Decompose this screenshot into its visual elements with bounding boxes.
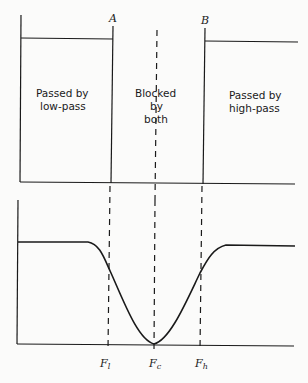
marker-a-label: A <box>108 12 117 25</box>
low-pass-region-label: Passed by low-pass <box>36 87 89 112</box>
fh-sub: h <box>203 362 208 371</box>
high-pass-line1: Passed by <box>229 89 282 101</box>
svg-text:Fc: Fc <box>148 357 162 371</box>
fl-label: Fl <box>99 357 111 371</box>
fc-label: Fc <box>148 357 162 371</box>
svg-text:Fh: Fh <box>194 357 208 371</box>
fc-dashed-line <box>154 200 155 350</box>
high-pass-region-label: Passed by high-pass <box>229 89 282 114</box>
fh-dashed-line <box>200 186 202 350</box>
fc-sub: c <box>157 362 162 371</box>
high-pass-line2: high-pass <box>229 102 280 114</box>
svg-text:Fl: Fl <box>99 357 111 371</box>
band-stop-filter-diagram: A B Passed by low-pass Blocked by both P… <box>0 0 308 383</box>
low-pass-level-line <box>21 38 113 39</box>
band-stop-response-curve <box>18 242 295 344</box>
blocked-line1: Blocked <box>135 87 176 99</box>
fc-main: F <box>148 357 157 370</box>
blocked-line3: both <box>144 113 168 125</box>
fl-sub: l <box>108 362 111 371</box>
fh-main: F <box>194 357 203 370</box>
cutoff-b-line <box>203 28 205 184</box>
fl-main: F <box>99 357 108 370</box>
blocked-line2: by <box>150 100 163 112</box>
low-pass-line1: Passed by <box>36 87 89 99</box>
blocked-region-label: Blocked by both <box>135 87 176 125</box>
high-pass-level-line <box>205 41 298 42</box>
low-pass-line2: low-pass <box>40 100 86 112</box>
top-y-axis <box>20 15 21 182</box>
bottom-y-axis <box>17 200 18 344</box>
bottom-diagram <box>17 186 295 350</box>
cutoff-a-line <box>111 26 113 183</box>
marker-b-label: B <box>200 14 209 27</box>
top-x-axis <box>20 182 295 184</box>
diagram-svg: A B Passed by low-pass Blocked by both P… <box>0 0 308 383</box>
fh-label: Fh <box>194 357 208 371</box>
